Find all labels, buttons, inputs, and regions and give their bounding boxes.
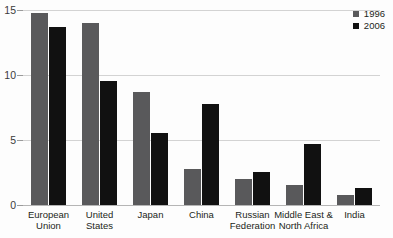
plot-area xyxy=(23,0,380,206)
bar-1996-india xyxy=(337,195,354,205)
x-axis-label-india: India xyxy=(325,209,384,220)
bars-layer xyxy=(23,0,380,206)
bar-1996-japan xyxy=(133,92,150,205)
bar-chart: 1996 2006 15 10 5 0 European UnionUnited… xyxy=(0,0,393,238)
bar-2006-china xyxy=(202,104,219,205)
y-tick-label-5: 5 xyxy=(0,135,16,146)
bar-1996-russian-federation xyxy=(235,179,252,205)
y-tick-label-10: 10 xyxy=(0,70,16,81)
bar-1996-european-union xyxy=(31,13,48,205)
y-tick-label-0: 0 xyxy=(0,200,16,211)
bar-1996-middle-east-and-north-africa xyxy=(286,185,303,205)
bar-2006-india xyxy=(355,188,372,205)
bar-1996-china xyxy=(184,169,201,205)
bar-2006-japan xyxy=(151,133,168,205)
y-tick-label-15: 15 xyxy=(0,5,16,16)
bar-2006-russian-federation xyxy=(253,172,270,205)
bar-1996-united-states xyxy=(82,23,99,205)
bar-2006-european-union xyxy=(49,27,66,205)
bar-2006-united-states xyxy=(100,81,117,205)
bar-2006-middle-east-and-north-africa xyxy=(304,144,321,205)
